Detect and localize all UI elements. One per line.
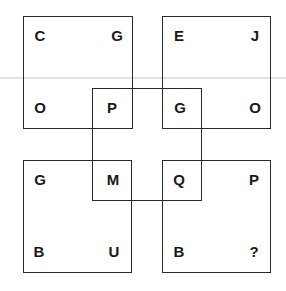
letter-br-tr: P [244, 172, 264, 188]
letter-tr-tr: J [245, 28, 265, 44]
letter-tr-bl: G [170, 100, 190, 116]
letter-br-tl: Q [169, 172, 189, 188]
letter-tl-tr: G [107, 28, 127, 44]
missing-value-marker: ? [244, 244, 264, 260]
letter-bl-tr: M [103, 172, 123, 188]
letter-bl-bl: B [29, 244, 49, 260]
letter-tl-bl: O [30, 100, 50, 116]
letter-br-bl: B [169, 244, 189, 260]
letter-tl-tl: C [30, 28, 50, 44]
letter-tl-br: P [102, 100, 122, 116]
letter-tr-br: O [245, 100, 265, 116]
letter-bl-br: U [104, 244, 124, 260]
letter-bl-tl: G [30, 172, 50, 188]
letter-tr-tl: E [169, 28, 189, 44]
